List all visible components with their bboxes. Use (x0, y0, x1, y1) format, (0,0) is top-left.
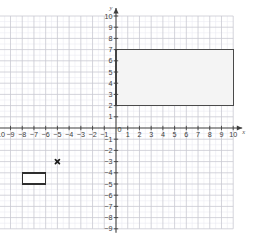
y-tick-label: 8 (108, 34, 112, 43)
y-tick-label: 6 (108, 56, 112, 65)
y-axis-name: y (109, 4, 113, 11)
x-tick-label: 10 (229, 130, 237, 139)
y-tick-label: 2 (108, 101, 112, 110)
x-tick-label: −2 (88, 130, 96, 139)
x-tick-label: −10 (0, 130, 5, 139)
large-rectangle (116, 50, 233, 106)
y-tick-label: −5 (104, 180, 112, 189)
x-tick-label: 9 (219, 130, 223, 139)
y-tick-label: −6 (104, 191, 112, 200)
x-axis-name: x (241, 128, 245, 135)
x-tick-label: −5 (53, 130, 61, 139)
x-tick-label: −3 (77, 130, 85, 139)
x-tick-label: 1 (126, 130, 130, 139)
y-axis-arrowhead (113, 8, 118, 13)
x-tick-label: 4 (161, 130, 165, 139)
x-tick-label: −9 (6, 130, 14, 139)
x-tick-label: −8 (18, 130, 26, 139)
y-tick-label: −7 (104, 202, 112, 211)
y-tick-label: 4 (108, 79, 112, 88)
x-tick-label: −4 (65, 130, 73, 139)
y-tick-label: 5 (108, 68, 112, 77)
x-tick-label: −7 (30, 130, 38, 139)
plot-canvas: −10−9−8−7−6−5−4−3−2−11234567891010987654… (0, 0, 257, 246)
y-tick-label: −8 (104, 213, 112, 222)
x-tick-label: 6 (184, 130, 188, 139)
y-tick-label: −9 (104, 224, 112, 233)
y-tick-label: −3 (104, 157, 112, 166)
y-tick-label: 10 (104, 12, 112, 21)
small-rectangle (22, 173, 45, 184)
y-tick-label: 9 (108, 23, 112, 32)
x-tick-label: 3 (149, 130, 153, 139)
coordinate-plane-figure: −10−9−8−7−6−5−4−3−2−11234567891010987654… (0, 0, 257, 246)
y-tick-label: 7 (108, 45, 112, 54)
y-tick-label: −1 (104, 135, 112, 144)
x-tick-label: 5 (173, 130, 177, 139)
origin-label: 0 (118, 125, 122, 134)
y-tick-label: 1 (108, 112, 112, 121)
y-tick-label: 3 (108, 90, 112, 99)
y-tick-label: −2 (104, 146, 112, 155)
y-tick-label: −4 (104, 168, 112, 177)
x-tick-label: 7 (196, 130, 200, 139)
x-tick-label: 2 (137, 130, 141, 139)
x-tick-label: −6 (42, 130, 50, 139)
x-tick-label: 8 (208, 130, 212, 139)
